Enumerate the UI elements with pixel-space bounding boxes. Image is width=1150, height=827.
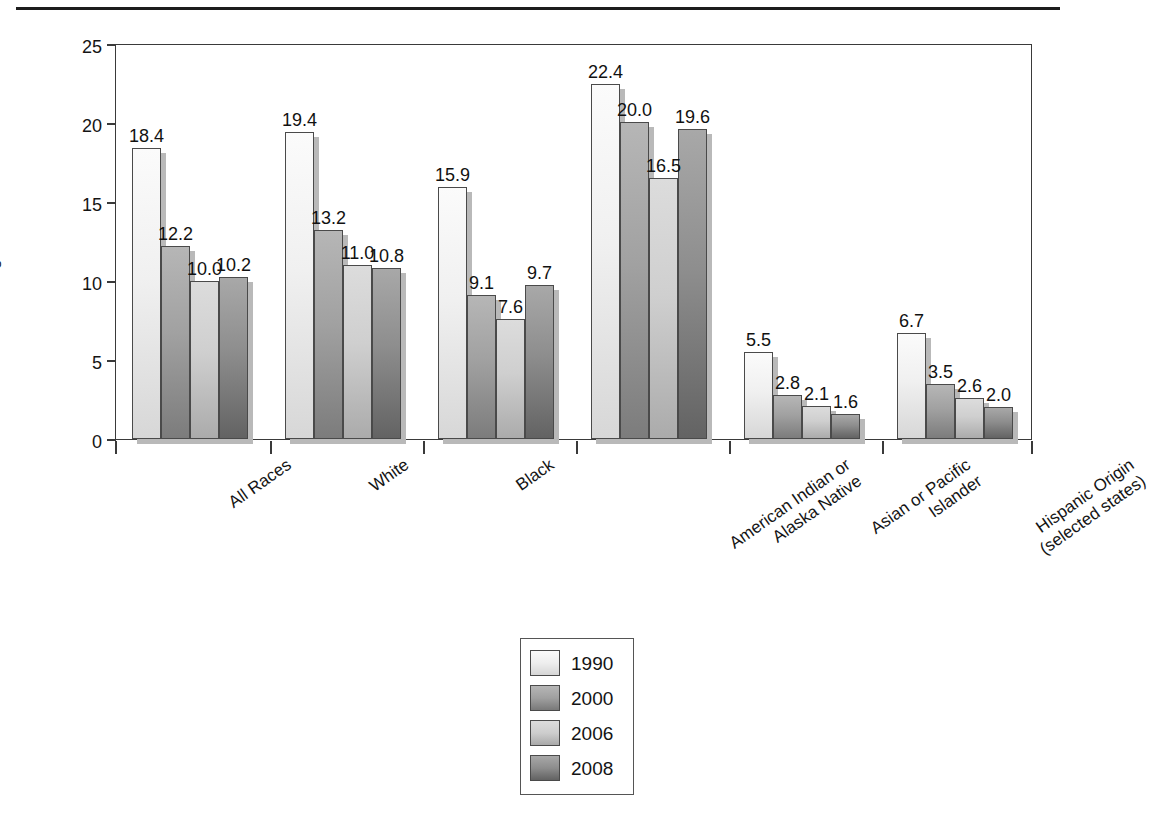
x-tick-mark-6 [1031,441,1033,454]
bar[interactable]: 16.5 [649,178,678,439]
bar-value-label: 12.2 [149,225,203,243]
bar-fill [285,132,314,439]
bar-fill [219,277,248,439]
x-axis-category-line: White [366,455,413,496]
x-tick-mark-0 [115,441,117,454]
bar-fill [744,352,773,439]
bar-value-label: 6.7 [885,312,939,330]
bar-fill [649,178,678,439]
bar[interactable]: 19.6 [678,129,707,439]
y-tick-label-15: 15 [60,196,102,214]
y-tick-label-20: 20 [60,117,102,135]
legend-label-2000: 2000 [571,689,613,708]
bar-value-label: 19.4 [273,111,327,129]
legend-item-2000[interactable]: 2000 [530,683,613,713]
bar[interactable]: 6.7 [897,333,926,439]
bar-group: 5.52.82.11.6 [744,45,860,439]
bars-layer: 18.412.210.010.219.413.211.010.815.99.17… [116,45,1031,439]
bar-value-label: 13.2 [302,209,356,227]
bar-group: 19.413.211.010.8 [285,45,401,439]
plot-area: 18.412.210.010.219.413.211.010.815.99.17… [115,44,1032,440]
bar-value-label: 22.4 [579,63,633,81]
bar-fill [438,187,467,439]
bar-value-label: 1.6 [819,393,873,411]
bar[interactable]: 9.1 [467,295,496,439]
bar-value-label: 10.2 [207,256,261,274]
bar-value-label: 10.8 [360,247,414,265]
x-tick-mark-3 [576,441,578,454]
bar-group: 22.420.016.519.6 [591,45,707,439]
bar-fill [984,407,1013,439]
x-tick-mark-2 [423,441,425,454]
bar-fill [955,398,984,439]
bar-value-label: 5.5 [732,331,786,349]
x-axis-category-label: Hispanic Origin(selected states) [1025,455,1150,559]
bar-fill [678,129,707,439]
bar[interactable]: 19.4 [285,132,314,439]
bar-fill [897,333,926,439]
bar-group: 6.73.52.62.0 [897,45,1013,439]
x-tick-mark-5 [882,441,884,454]
legend-item-2008[interactable]: 2008 [530,753,613,783]
legend-label-2008: 2008 [571,759,613,778]
legend-swatch-1990 [530,650,560,676]
bar[interactable]: 2.0 [984,407,1013,439]
bar-fill [467,295,496,439]
bar-value-label: 2.0 [972,386,1026,404]
y-axis-title: Percentage of mothers who smoked [0,0,3,415]
bar-value-label: 9.7 [513,264,567,282]
bar-group: 15.99.17.69.7 [438,45,554,439]
legend-swatch-2000 [530,685,560,711]
bar[interactable]: 1.6 [831,414,860,439]
bar-value-label: 15.9 [426,166,480,184]
y-tick-label-25: 25 [60,38,102,56]
y-tick-label-5: 5 [60,354,102,372]
y-tick-label-0: 0 [60,433,102,451]
bar[interactable]: 11.0 [343,265,372,439]
x-axis-category-label: Asian or PacificIslander [867,455,986,555]
bar-value-label: 18.4 [120,127,174,145]
bar[interactable]: 18.4 [132,148,161,439]
bar-fill [496,319,525,439]
bar[interactable]: 10.2 [219,277,248,439]
bar[interactable]: 2.6 [955,398,984,439]
x-axis-category-label: Black [513,455,559,495]
x-tick-mark-4 [729,441,731,454]
bar[interactable]: 15.9 [438,187,467,439]
bar-fill [591,84,620,439]
top-divider-rule [16,7,1060,10]
bar-value-label: 20.0 [608,101,662,119]
x-axis-category-label: White [366,455,413,496]
bar-value-label: 9.1 [455,274,509,292]
bar-fill [343,265,372,439]
bar-group: 18.412.210.010.2 [132,45,248,439]
x-axis-category-label: American Indian orAlaska Native [726,455,866,570]
y-tick-label-10: 10 [60,275,102,293]
bar-fill [831,414,860,439]
legend-label-2006: 2006 [571,724,613,743]
x-tick-mark-1 [270,441,272,454]
bar[interactable]: 5.5 [744,352,773,439]
bar[interactable]: 22.4 [591,84,620,439]
x-axis-category-line: All Races [225,455,295,513]
bar-value-label: 16.5 [637,157,691,175]
x-axis-category-line: Black [513,455,559,495]
bar[interactable]: 7.6 [496,319,525,439]
legend-label-1990: 1990 [571,654,613,673]
legend-swatch-2006 [530,720,560,746]
legend-item-2006[interactable]: 2006 [530,718,613,748]
bar[interactable]: 10.8 [372,268,401,439]
legend-box: 1990 2000 2006 2008 [520,638,634,795]
legend-item-1990[interactable]: 1990 [530,648,613,678]
bar-value-label: 7.6 [484,298,538,316]
bar-fill [190,281,219,439]
bar-value-label: 19.6 [666,108,720,126]
bar-fill [372,268,401,439]
x-axis-category-label: All Races [225,455,295,513]
bar[interactable]: 10.0 [190,281,219,439]
bar-fill [132,148,161,439]
legend-swatch-2008 [530,755,560,781]
